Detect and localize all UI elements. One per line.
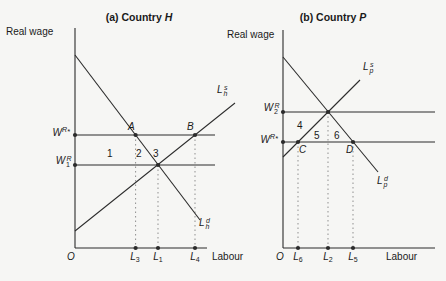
tick-label-L6: L6 bbox=[293, 252, 302, 263]
point-label-D: D bbox=[346, 145, 353, 155]
diagram-lines bbox=[0, 0, 446, 281]
demand-curve-label-a: Ldh bbox=[199, 218, 209, 228]
wage-autarky-label-a: WR1 bbox=[28, 156, 70, 166]
wage-world-label-a: WR* bbox=[28, 126, 70, 138]
y-axis-label-b: Real wage bbox=[227, 30, 274, 40]
marker-tick-L5 bbox=[351, 246, 355, 250]
marker-tick-L1 bbox=[156, 246, 160, 250]
marker-wage-world-b bbox=[281, 140, 285, 144]
marker-tick-L2 bbox=[326, 246, 330, 250]
marker-equilibrium-a bbox=[156, 163, 160, 167]
panel-a-title: (a) Country H bbox=[106, 12, 173, 23]
marker-tick-L4 bbox=[193, 246, 197, 250]
tick-label-L5: L5 bbox=[348, 252, 357, 263]
labour-demand-curve-a bbox=[75, 55, 200, 220]
origin-label-b: O bbox=[276, 252, 284, 262]
marker-wage-world-a bbox=[73, 133, 77, 137]
marker-wage-autarky-b bbox=[281, 110, 285, 114]
panel-b-title: (b) Country P bbox=[300, 12, 367, 23]
region-label-4: 4 bbox=[297, 121, 303, 131]
marker-point-A bbox=[134, 133, 138, 137]
labour-demand-curve-b bbox=[283, 57, 378, 172]
demand-curve-label-b: Ldp bbox=[377, 176, 387, 186]
y-axis-label-a: Real wage bbox=[6, 27, 53, 37]
tick-label-L4: L4 bbox=[190, 252, 199, 263]
region-label-5: 5 bbox=[314, 131, 320, 141]
figure-two-country-labour-market: (a) Country H Real wage WR* WR1 A B 1 2 … bbox=[0, 0, 446, 281]
region-label-2: 2 bbox=[136, 149, 142, 159]
supply-curve-label-a: Lsh bbox=[217, 85, 227, 95]
wage-autarky-label-b: WR2 bbox=[236, 103, 278, 113]
point-label-C: C bbox=[299, 145, 306, 155]
marker-tick-L3 bbox=[134, 246, 138, 250]
tick-label-L1: L1 bbox=[153, 252, 162, 263]
x-axis-label-b: Labour bbox=[386, 252, 417, 262]
marker-point-B bbox=[193, 133, 197, 137]
marker-equilibrium-b bbox=[326, 110, 330, 114]
x-axis-label-a: Labour bbox=[212, 252, 243, 262]
point-label-B: B bbox=[187, 122, 194, 132]
tick-label-L3: L3 bbox=[130, 252, 139, 263]
marker-tick-L6 bbox=[296, 246, 300, 250]
supply-curve-label-b: Lsp bbox=[363, 62, 373, 72]
marker-wage-autarky-a bbox=[73, 163, 77, 167]
wage-world-label-b: WR* bbox=[236, 133, 278, 145]
labour-supply-curve-a bbox=[75, 103, 235, 231]
region-label-3: 3 bbox=[153, 149, 159, 159]
point-label-A: A bbox=[128, 122, 135, 132]
region-label-6: 6 bbox=[334, 131, 340, 141]
origin-label-a: O bbox=[67, 252, 75, 262]
tick-label-L2: L2 bbox=[323, 252, 332, 263]
region-label-1: 1 bbox=[107, 149, 113, 159]
